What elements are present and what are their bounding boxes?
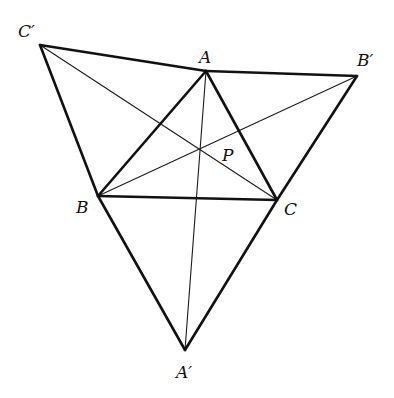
edge-a-b-prime [206,71,357,76]
cevian-c-c-prime [40,45,277,200]
label-c-prime: C′ [18,21,35,41]
edge-c-prime-b [40,45,98,196]
edge-b-a-prime [98,196,185,350]
edge-c-a-prime [185,200,277,350]
edge-c-prime-a [40,45,206,71]
label-b-prime: B′ [356,50,373,70]
label-p: P [221,145,234,165]
label-c: C [284,199,297,219]
edge-a-b [98,71,206,196]
label-a-prime: A′ [174,362,192,382]
label-a: A [197,47,211,67]
edge-c-a [206,71,277,200]
label-b: B [75,197,89,217]
geometry-diagram: C′ A B′ P B C A′ [0,0,394,398]
cevian-a-a-prime [185,71,206,350]
edge-b-c [98,196,277,200]
